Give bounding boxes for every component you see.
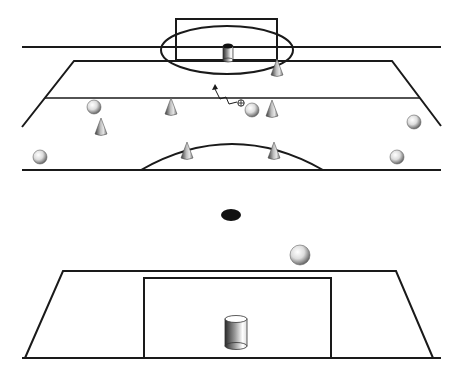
top-trapezoid-outline [22,61,441,127]
drill-diagram [0,0,463,374]
top-arc [141,144,323,170]
top-goal-bin [223,44,233,63]
ball-icon [33,150,47,164]
loose-ball-icon [290,245,310,265]
balls [33,100,421,164]
cone-icon [95,118,107,136]
center-marker-icon [221,209,241,221]
player-marker-icon [238,100,244,106]
arrow-head-icon [212,84,218,90]
dribble-path [212,84,237,104]
cone-icon [165,98,177,116]
ball-icon [87,100,101,114]
ball-icon [245,103,259,117]
cone-icon [266,100,278,118]
ball-icon [390,150,404,164]
bottom-goal-bin [225,316,247,350]
zigzag-path [215,89,237,104]
field-canvas [0,0,463,374]
top-field [22,19,441,170]
ball-icon [407,115,421,129]
